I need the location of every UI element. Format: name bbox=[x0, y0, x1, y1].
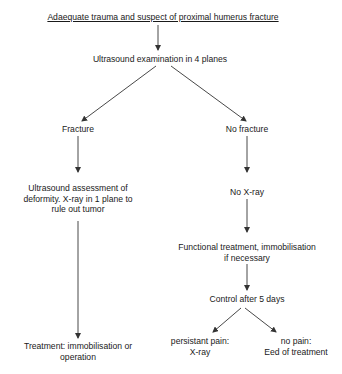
node-persistant-line1: persistant pain: bbox=[160, 336, 240, 347]
node-fracture: Fracture bbox=[38, 124, 118, 135]
node-ultrasound: Ultrasound examination in 4 planes bbox=[60, 54, 260, 65]
arrow-control-to-persistant bbox=[213, 308, 241, 332]
arrow-ultrasound-to-fracture bbox=[82, 66, 156, 121]
arrow-control-to-no-pain bbox=[245, 308, 276, 332]
node-assessment-line3: rule out tumor bbox=[8, 204, 148, 215]
node-no-pain-line1: no pain: bbox=[250, 336, 342, 347]
node-no-pain: no pain: Eed of treatment bbox=[250, 336, 342, 357]
node-treatment-line1: Treatment: immobilisation or bbox=[6, 341, 150, 352]
node-treatment-line2: operation bbox=[6, 352, 150, 363]
node-assessment-line1: Ultrasound assessment of bbox=[8, 183, 148, 194]
node-assessment-line2: deformity. X-ray in 1 plane to bbox=[8, 194, 148, 205]
node-assessment: Ultrasound assessment of deformity. X-ra… bbox=[8, 183, 148, 215]
node-persistant-pain: persistant pain: X-ray bbox=[160, 336, 240, 357]
node-no-xray: No X-ray bbox=[207, 187, 287, 198]
node-treatment: Treatment: immobilisation or operation bbox=[6, 341, 150, 362]
node-no-fracture: No fracture bbox=[207, 124, 287, 135]
node-persistant-line2: X-ray bbox=[160, 347, 240, 358]
node-start: Adaequate trauma and suspect of proximal… bbox=[0, 12, 326, 23]
node-functional: Functional treatment, immobilisation if … bbox=[152, 242, 342, 263]
node-functional-line2: if necessary bbox=[152, 253, 342, 264]
node-control: Control after 5 days bbox=[187, 294, 307, 305]
node-functional-line1: Functional treatment, immobilisation bbox=[152, 242, 342, 253]
node-no-pain-line2: Eed of treatment bbox=[250, 347, 342, 358]
arrow-ultrasound-to-no-fracture bbox=[171, 66, 246, 121]
